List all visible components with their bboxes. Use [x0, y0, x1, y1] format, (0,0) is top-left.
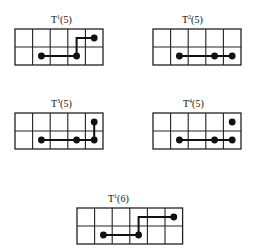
dot-marker	[135, 232, 142, 239]
dot-marker	[38, 137, 45, 144]
dot-marker	[100, 232, 107, 239]
dot-marker	[170, 214, 177, 221]
grid-diagrams	[0, 0, 255, 250]
dot-marker	[229, 53, 236, 60]
dot-marker	[229, 119, 236, 126]
dot-marker	[38, 53, 45, 60]
dot-marker	[91, 119, 98, 126]
dot-marker	[73, 53, 80, 60]
dot-marker	[91, 137, 98, 144]
dot-marker	[211, 53, 218, 60]
dot-marker	[91, 35, 98, 42]
dot-marker	[176, 137, 183, 144]
dot-marker	[73, 137, 80, 144]
dot-marker	[211, 137, 218, 144]
dot-marker	[176, 53, 183, 60]
dot-marker	[229, 137, 236, 144]
